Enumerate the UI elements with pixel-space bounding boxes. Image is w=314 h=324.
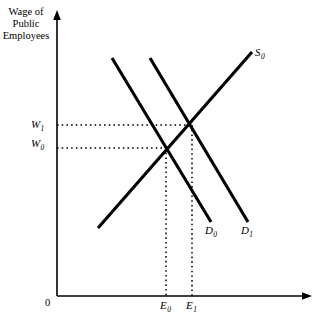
- curve-label-d0: D0: [205, 224, 217, 236]
- x-axis-label-e1-symbol: E: [186, 299, 193, 311]
- y-axis-label-w0: W0: [31, 137, 44, 149]
- y-axis-title: Wage of Public Employees: [0, 6, 52, 41]
- curve-label-d0-symbol: D: [205, 224, 213, 236]
- curve-label-d1-symbol: D: [241, 224, 249, 236]
- y-axis-arrowhead: [53, 10, 61, 20]
- guide-lines-group: [57, 125, 192, 296]
- axes-group: [53, 10, 312, 300]
- curve-label-s0: S0: [255, 46, 265, 58]
- origin-label: 0: [45, 297, 50, 309]
- curve-label-s0-subscript: 0: [261, 52, 265, 61]
- diagram-canvas: [0, 0, 314, 324]
- y-axis-label-w1-symbol: W: [31, 118, 40, 130]
- demand-curve-d1: [150, 58, 248, 222]
- y-axis-label-w1: W1: [31, 118, 44, 130]
- curve-label-s0-symbol: S: [255, 46, 261, 58]
- x-axis-label-e1: E1: [186, 299, 197, 311]
- y-axis-label-w1-subscript: 1: [40, 124, 44, 133]
- y-axis-label-w0-symbol: W: [31, 137, 40, 149]
- curve-label-d1-subscript: 1: [249, 230, 253, 239]
- y-axis-title-line-1: Wage of: [0, 6, 52, 18]
- supply-curve-s0: [98, 52, 252, 228]
- x-axis-label-e0: E0: [160, 299, 171, 311]
- x-axis-arrowhead: [302, 292, 312, 300]
- curves-group: [98, 52, 252, 228]
- curve-label-d1: D1: [241, 224, 253, 236]
- x-axis-label-e0-symbol: E: [160, 299, 167, 311]
- y-axis-title-line-2: Public: [0, 18, 52, 30]
- y-axis-label-w0-subscript: 0: [40, 143, 44, 152]
- y-axis-title-line-3: Employees: [0, 30, 52, 42]
- x-axis-label-e1-subscript: 1: [193, 305, 197, 314]
- curve-label-d0-subscript: 0: [213, 230, 217, 239]
- x-axis-label-e0-subscript: 0: [167, 305, 171, 314]
- supply-demand-diagram: Wage of Public Employees W1 W0 E0 E1 S0 …: [0, 0, 314, 324]
- demand-curve-d0: [112, 58, 211, 222]
